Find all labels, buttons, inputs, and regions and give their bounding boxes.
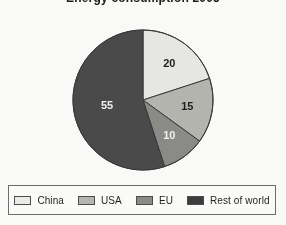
legend-item-label: USA (101, 195, 122, 206)
pie-slice-value-label: 20 (163, 57, 175, 69)
chart-legend: ChinaUSAEURest of world (8, 185, 276, 215)
pie-slice-value-label: 15 (181, 100, 193, 112)
page-title: Energy consumption 2005 (0, 0, 286, 5)
legend-item-label: Rest of world (210, 195, 270, 206)
legend-item-label: China (37, 195, 64, 206)
pie-slice-value-label: 55 (101, 99, 113, 111)
pie-chart: 20151055 (0, 7, 286, 179)
legend-swatch-icon (187, 196, 204, 205)
legend-item: EU (136, 195, 173, 206)
pie-slice-value-label: 10 (163, 129, 175, 141)
legend-item: Rest of world (187, 195, 270, 206)
legend-item-label: EU (159, 195, 173, 206)
legend-item: China (14, 195, 64, 206)
legend-swatch-icon (14, 196, 31, 205)
pie-chart-svg: 20151055 (0, 7, 286, 179)
legend-swatch-icon (136, 196, 153, 205)
legend-item: USA (78, 195, 122, 206)
chart-title-strip: Energy consumption 2005 (0, 0, 286, 7)
legend-swatch-icon (78, 196, 95, 205)
